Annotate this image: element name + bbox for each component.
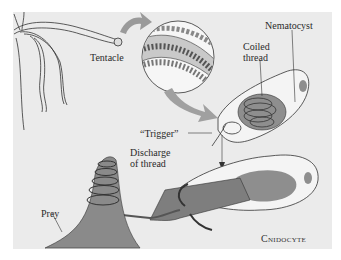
label-tentacle: Tentacle	[90, 52, 124, 63]
label-trigger: “Trigger”	[140, 128, 179, 139]
nematocyst-discharged	[150, 155, 318, 230]
label-discharge-line1: Discharge	[130, 147, 170, 158]
label-coiled-thread-line2: thread	[243, 52, 268, 63]
zoom-arrow	[164, 88, 218, 122]
tentacles-drawing	[14, 12, 122, 130]
magnified-tentacle-section	[140, 21, 220, 93]
label-prey: Prey	[41, 208, 59, 219]
label-coiled-thread-line1: Coiled	[243, 41, 270, 52]
magnify-arrow	[120, 12, 152, 34]
figure-caption: Cnidocyte	[261, 233, 306, 244]
label-nematocyst: Nematocyst	[265, 20, 313, 31]
label-discharge-line2: of thread	[130, 158, 166, 169]
prey-drawing	[45, 157, 140, 248]
